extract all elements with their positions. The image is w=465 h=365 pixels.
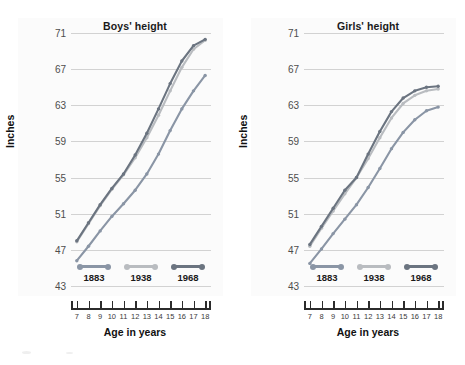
figure-root: Boys' height Inches 4347515559636771 188… xyxy=(0,0,465,365)
x-axis-tick-label: 15 xyxy=(166,312,174,321)
x-axis-tick-label: 11 xyxy=(120,312,128,321)
x-axis-tick-label: 18 xyxy=(434,312,442,321)
legend-swatch-icon xyxy=(119,262,163,271)
series-lines-girls xyxy=(304,33,444,286)
x-axis-cap-right xyxy=(209,301,211,310)
data-point-1883 xyxy=(122,202,125,205)
legend-item-1883[interactable]: 1883 xyxy=(72,262,116,283)
x-axis-tick-label: 12 xyxy=(131,312,139,321)
data-point-1968 xyxy=(75,239,78,242)
series-line-1883 xyxy=(310,107,438,263)
data-point-1883 xyxy=(378,167,381,170)
x-axis-tick xyxy=(357,301,359,309)
data-point-1938 xyxy=(168,89,171,92)
data-point-1968 xyxy=(390,110,393,113)
data-point-1938 xyxy=(401,102,404,105)
data-point-1938 xyxy=(157,114,160,117)
scan-artifact xyxy=(66,352,73,354)
x-axis-tick-label: 10 xyxy=(108,312,116,321)
data-point-1883 xyxy=(192,89,195,92)
legend-label: 1938 xyxy=(119,272,163,283)
x-axis-tick-label: 18 xyxy=(201,312,209,321)
x-axis-cap-left xyxy=(304,301,306,310)
x-axis-tick-label: 13 xyxy=(143,312,151,321)
legend-item-1938[interactable]: 1938 xyxy=(119,262,163,283)
y-axis-tick-label: 71 xyxy=(55,28,66,39)
legend-label: 1938 xyxy=(352,272,396,283)
x-axis-tick-label: 12 xyxy=(364,312,372,321)
x-axis-tick-label: 8 xyxy=(319,312,323,321)
data-point-1883 xyxy=(168,129,171,132)
data-point-1968 xyxy=(133,153,136,156)
legend-dot-icon xyxy=(105,264,111,270)
x-axis-tick xyxy=(427,301,429,309)
legend-swatch-icon xyxy=(305,262,349,271)
data-point-1968 xyxy=(98,203,101,206)
data-point-1938 xyxy=(413,94,416,97)
x-axis-tick-label: 11 xyxy=(353,312,361,321)
data-point-1968 xyxy=(157,107,160,110)
x-axis-tick-label: 9 xyxy=(331,312,335,321)
data-point-1883 xyxy=(110,215,113,218)
x-axis-tick xyxy=(194,301,196,309)
x-axis-tick-label: 14 xyxy=(154,312,162,321)
plot-area-boys: 4347515559636771 xyxy=(71,33,211,286)
legend-dot-icon xyxy=(310,264,316,270)
y-axis-tick-label: 63 xyxy=(55,100,66,111)
x-axis-tick xyxy=(310,301,312,309)
data-point-1883 xyxy=(366,186,369,189)
y-axis-tick-label: 71 xyxy=(288,28,299,39)
x-axis-cap-left xyxy=(71,301,73,310)
x-axis-line xyxy=(71,308,211,310)
y-axis-tick-label: 59 xyxy=(55,136,66,147)
x-axis-label-girls: Age in years xyxy=(283,326,453,338)
legend-dot-icon xyxy=(152,264,158,270)
legend-dot-icon xyxy=(171,264,177,270)
data-point-1968 xyxy=(425,86,428,89)
scan-artifact xyxy=(22,351,31,354)
legend-dot-icon xyxy=(432,264,438,270)
series-line-1968 xyxy=(310,86,438,244)
data-point-1968 xyxy=(192,44,195,47)
y-axis-tick-label: 59 xyxy=(288,136,299,147)
data-point-1968 xyxy=(87,221,90,224)
y-axis-tick-label: 43 xyxy=(288,281,299,292)
data-point-1968 xyxy=(122,172,125,175)
legend-item-1938[interactable]: 1938 xyxy=(352,262,396,283)
legend-item-1968[interactable]: 1968 xyxy=(399,262,443,283)
x-axis-tick xyxy=(77,301,79,309)
x-axis-tick xyxy=(368,301,370,309)
legend-item-1968[interactable]: 1968 xyxy=(166,262,210,283)
x-axis-tick xyxy=(438,301,440,309)
x-axis-tick xyxy=(205,301,207,309)
chart-panel-girls: Girls' height Inches 4347515559636771 18… xyxy=(233,0,465,365)
legend-swatch-icon xyxy=(166,262,210,271)
data-point-1938 xyxy=(425,89,428,92)
data-point-1938 xyxy=(378,136,381,139)
legend-dot-icon xyxy=(357,264,363,270)
legend-dot-icon xyxy=(124,264,130,270)
y-axis-tick-label: 55 xyxy=(55,172,66,183)
x-axis-tick xyxy=(182,301,184,309)
x-axis-tick xyxy=(415,301,417,309)
legend-boys: 188319381968 xyxy=(71,262,211,288)
x-axis-tick-label: 14 xyxy=(387,312,395,321)
data-point-1883 xyxy=(98,229,101,232)
data-point-1968 xyxy=(145,132,148,135)
data-point-1883 xyxy=(180,107,183,110)
chart-title-boys: Boys' height xyxy=(50,20,220,32)
series-lines-boys xyxy=(71,33,211,286)
legend-item-1883[interactable]: 1883 xyxy=(305,262,349,283)
data-point-1883 xyxy=(343,217,346,220)
legend-girls: 188319381968 xyxy=(304,262,444,288)
legend-swatch-icon xyxy=(72,262,116,271)
legend-dot-icon xyxy=(77,264,83,270)
data-point-1883 xyxy=(390,147,393,150)
plot-area-girls: 4347515559636771 xyxy=(304,33,444,286)
data-point-1968 xyxy=(366,152,369,155)
data-point-1968 xyxy=(401,96,404,99)
data-point-1968 xyxy=(168,82,171,85)
series-line-1883 xyxy=(77,75,205,260)
data-point-1883 xyxy=(203,74,206,77)
x-axis-tick xyxy=(112,301,114,309)
